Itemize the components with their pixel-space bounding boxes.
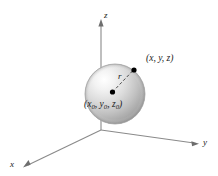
center-point-label: (x0, y0, z0) [84, 100, 122, 111]
z-axis-label: z [104, 11, 108, 20]
radius-label: r [118, 72, 122, 81]
x-axis [23, 130, 101, 167]
y-axis [101, 130, 199, 146]
sphere-figure: z y x (x, y, z) (x0, y0, z0) r [0, 0, 218, 176]
surface-point-label: (x, y, z) [146, 54, 173, 64]
x-axis-label: x [10, 160, 14, 169]
center-point-dot [110, 89, 115, 94]
sphere [85, 64, 145, 124]
center-label-close: ) [119, 99, 122, 109]
figure-canvas [0, 0, 218, 176]
y-axis-label: y [203, 138, 207, 147]
surface-point-dot [131, 67, 136, 72]
